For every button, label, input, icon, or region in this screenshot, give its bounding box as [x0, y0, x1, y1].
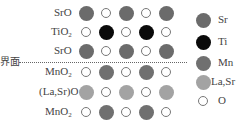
atom-o [161, 27, 171, 37]
interface-label: 界面 [0, 56, 20, 68]
atom-o [161, 67, 171, 77]
atom-lasr [159, 85, 174, 100]
layer-label: MnO2 [45, 105, 72, 117]
atom-o [121, 27, 131, 37]
layer-formula: MnO [45, 105, 68, 117]
atom-o [101, 8, 111, 18]
atom-sr [79, 6, 94, 21]
layer-formula: SrO [54, 44, 72, 56]
layer-formula: MnO [45, 65, 68, 77]
atom-o [161, 107, 171, 117]
layer-label: SrO [54, 44, 72, 56]
layer-formula: (La,Sr)O [39, 85, 78, 97]
layer-label: (La,Sr)O [39, 85, 78, 97]
legend-label: Sr [218, 13, 228, 25]
layer-subscript: 2 [68, 111, 72, 119]
layer-subscript: 2 [68, 71, 72, 79]
legend-ti-icon [196, 35, 211, 50]
atom-ti [99, 25, 114, 40]
legend-sr-icon [196, 13, 211, 28]
legend-label: Ti [218, 35, 227, 47]
layer-subscript: 2 [68, 31, 72, 39]
atom-o [101, 87, 111, 97]
atom-lasr [79, 85, 94, 100]
layer-label: MnO2 [45, 65, 72, 77]
atom-sr [79, 44, 94, 59]
legend-lasr-icon [196, 75, 211, 90]
atom-o [81, 27, 91, 37]
atom-mn [139, 105, 154, 120]
legend-label: Mn [218, 56, 233, 68]
atom-o [121, 107, 131, 117]
atom-sr [159, 6, 174, 21]
atom-o [141, 46, 151, 56]
atom-mn [99, 65, 114, 80]
atom-ti [139, 25, 154, 40]
layer-formula: SrO [54, 6, 72, 18]
layer-label: TiO2 [51, 25, 72, 37]
atom-lasr [119, 85, 134, 100]
layer-formula: TiO [51, 25, 68, 37]
legend-label: O [218, 94, 226, 106]
legend-mn-icon [196, 56, 211, 71]
legend-label: La,Sr [211, 75, 235, 87]
legend-o-icon [198, 96, 208, 106]
atom-sr [119, 6, 134, 21]
atom-o [81, 107, 91, 117]
atom-o [121, 67, 131, 77]
atom-mn [99, 105, 114, 120]
atom-o [101, 46, 111, 56]
layer-label: SrO [54, 6, 72, 18]
atom-o [141, 8, 151, 18]
interface-line [19, 62, 187, 63]
atom-sr [159, 44, 174, 59]
atom-sr [119, 44, 134, 59]
atom-o [81, 67, 91, 77]
atom-mn [139, 65, 154, 80]
atom-o [141, 87, 151, 97]
